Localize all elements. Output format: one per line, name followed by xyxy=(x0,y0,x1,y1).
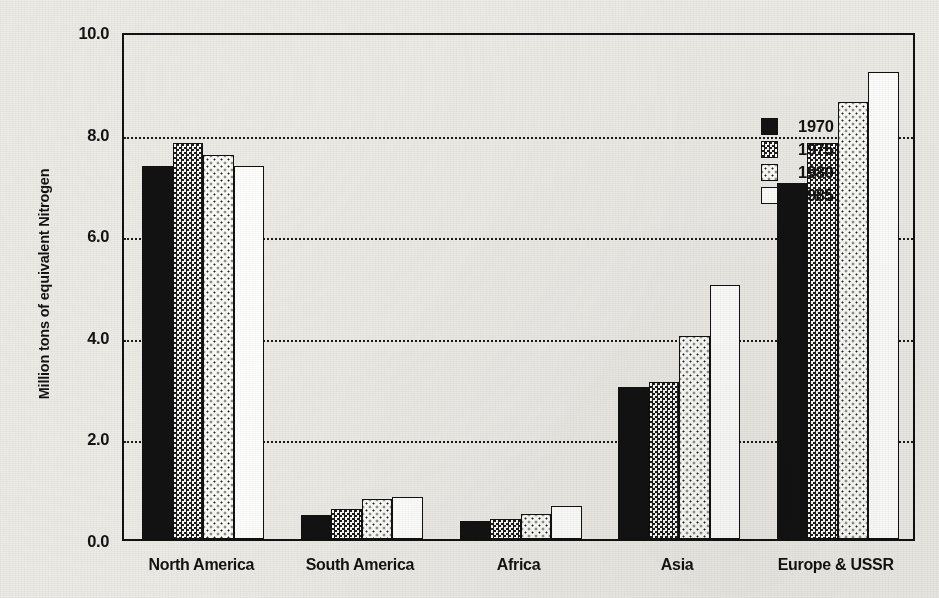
y-axis-tick-0.0: 0.0 xyxy=(0,532,122,551)
bar-asia-1985 xyxy=(710,285,741,539)
bar-africa-1970 xyxy=(460,521,491,539)
light-dots-swatch xyxy=(761,164,778,181)
y-axis-tick-8.0: 8.0 xyxy=(0,125,122,144)
legend-label: 1970 xyxy=(798,117,834,136)
y-axis-tick-2.0: 2.0 xyxy=(0,430,122,449)
bar-europe-ussr-1970 xyxy=(777,183,808,539)
plot-area: 1970197519801985 xyxy=(122,33,915,541)
solid-black-swatch xyxy=(761,118,778,135)
legend-item-1975: 1975 xyxy=(761,138,834,161)
bar-north-america-1975 xyxy=(173,143,204,539)
x-axis-label-asia: Asia xyxy=(661,556,694,574)
bar-europe-ussr-1985 xyxy=(868,72,899,539)
white-swatch xyxy=(761,187,778,204)
bar-south-america-1980 xyxy=(362,499,393,539)
x-axis-label-europe-ussr: Europe & USSR xyxy=(778,556,894,574)
x-axis-label-africa: Africa xyxy=(497,556,541,574)
legend-label: 1985 xyxy=(798,186,834,205)
legend-label: 1975 xyxy=(798,140,834,159)
bar-south-america-1970 xyxy=(301,515,332,539)
bar-asia-1980 xyxy=(679,336,710,539)
bar-north-america-1970 xyxy=(142,166,173,539)
dense-checker-swatch xyxy=(761,141,778,158)
bar-africa-1975 xyxy=(490,519,521,539)
y-axis-tick-10.0: 10.0 xyxy=(0,24,122,43)
legend-item-1985: 1985 xyxy=(761,184,834,207)
legend-label: 1980 xyxy=(798,163,834,182)
x-axis-label-north-america: North America xyxy=(148,556,254,574)
bar-south-america-1975 xyxy=(331,509,362,539)
bar-north-america-1985 xyxy=(234,166,265,539)
x-axis-label-south-america: South America xyxy=(306,556,414,574)
bar-africa-1980 xyxy=(521,514,552,539)
bar-south-america-1985 xyxy=(392,497,423,539)
bar-chart-figure: Million tons of equivalent Nitrogen 0.02… xyxy=(0,0,939,598)
legend-item-1980: 1980 xyxy=(761,161,834,184)
legend-item-1970: 1970 xyxy=(761,115,834,138)
bar-europe-ussr-1980 xyxy=(838,102,869,539)
bar-africa-1985 xyxy=(551,506,582,539)
bar-asia-1970 xyxy=(618,387,649,539)
y-axis-tick-4.0: 4.0 xyxy=(0,328,122,347)
legend: 1970197519801985 xyxy=(761,115,834,207)
bar-north-america-1980 xyxy=(203,155,234,539)
y-axis-tick-6.0: 6.0 xyxy=(0,227,122,246)
bar-asia-1975 xyxy=(649,382,680,539)
